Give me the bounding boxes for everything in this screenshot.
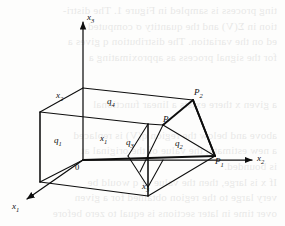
- point-label-P2: P2: [194, 88, 203, 99]
- point-label-P1: P1: [215, 157, 224, 168]
- region-label-q4: q4: [107, 97, 115, 108]
- edge-q3-right-fan: [148, 160, 163, 187]
- edge-topback-to-P2-drop: [193, 100, 215, 156]
- figure-container: ting process is sampled in Figure 1. The…: [0, 0, 285, 226]
- edge-left-bottom-to-origin: [40, 182, 148, 196]
- edge-bottom-front: [148, 156, 215, 196]
- edge-label-x2: x2: [56, 91, 63, 102]
- edge-P-to-topmid: [148, 124, 163, 125]
- region-label-q1: q1: [54, 136, 62, 147]
- origin-label: 0: [75, 163, 79, 172]
- point-label-P: P: [163, 115, 169, 126]
- axis-label-x2: x2: [257, 154, 264, 165]
- axis-label-x1: x1: [12, 202, 19, 213]
- axis-label-x3: x3: [87, 13, 94, 24]
- edge-P-to-P1: [163, 125, 215, 156]
- edge-label-x1: x1: [100, 134, 107, 145]
- edge-top-midline: [40, 112, 148, 124]
- edge-label-x3: x3: [142, 182, 149, 193]
- region-label-q2: q2: [175, 139, 183, 150]
- region-label-q3: q3: [126, 138, 134, 149]
- edge-topback-right: [83, 88, 193, 100]
